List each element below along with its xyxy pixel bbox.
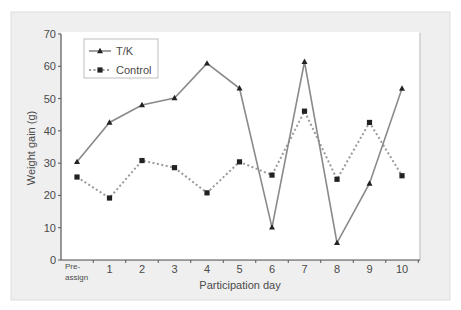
y-tick-label: 30 <box>44 157 56 169</box>
square-marker <box>367 120 372 125</box>
legend-label: Control <box>116 64 151 76</box>
y-tick-label: 70 <box>44 28 56 40</box>
y-tick-label: 40 <box>44 125 56 137</box>
x-tick-label: assign <box>65 273 88 282</box>
y-tick-label: 0 <box>50 254 56 266</box>
legend-square-icon <box>97 67 102 72</box>
square-marker <box>74 174 79 179</box>
x-tick-label: 6 <box>269 263 275 275</box>
square-marker <box>302 109 307 114</box>
y-axis-label: Weight gain (g) <box>25 111 37 185</box>
legend-label: T/K <box>116 45 134 57</box>
x-tick-label: 4 <box>204 263 210 275</box>
y-tick-label: 50 <box>44 93 56 105</box>
x-tick-label: 10 <box>396 263 408 275</box>
chart: 010203040506070Pre-assign12345678910 T/K… <box>0 0 461 310</box>
x-tick-label: 2 <box>139 263 145 275</box>
square-marker <box>139 158 144 163</box>
x-tick-label: Pre- <box>65 262 80 271</box>
x-tick-label: 7 <box>301 263 307 275</box>
square-marker <box>172 165 177 170</box>
square-marker <box>269 172 274 177</box>
x-axis-label: Participation day <box>199 279 281 291</box>
x-tick-label: 9 <box>366 263 372 275</box>
x-tick-label: 3 <box>171 263 177 275</box>
square-marker <box>237 159 242 164</box>
legend: T/KControl <box>84 39 158 78</box>
x-tick-label: 8 <box>334 263 340 275</box>
y-tick-label: 10 <box>44 222 56 234</box>
square-marker <box>334 177 339 182</box>
square-marker <box>399 173 404 178</box>
y-tick-label: 60 <box>44 60 56 72</box>
square-marker <box>204 190 209 195</box>
square-marker <box>107 195 112 200</box>
y-tick-label: 20 <box>44 189 56 201</box>
x-tick-label: 1 <box>106 263 112 275</box>
x-tick-label: 5 <box>236 263 242 275</box>
